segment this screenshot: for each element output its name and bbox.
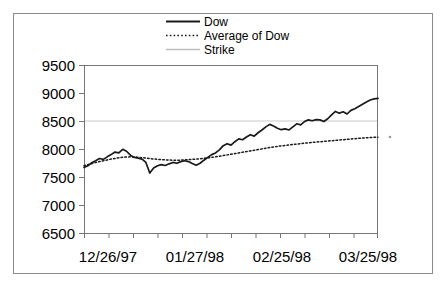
chart-figure: 9500 9000 8500 8000 7500 7000 6500 12/26…: [0, 0, 446, 294]
y-tick-label: 8500: [42, 113, 75, 130]
legend-label-strike: Strike: [204, 43, 235, 57]
y-tick-label: 9500: [42, 57, 75, 74]
legend-label-average: Average of Dow: [204, 29, 289, 43]
series-line-dow: [84, 98, 378, 173]
y-tick-label: 7500: [42, 169, 75, 186]
chart-legend: Dow Average of Dow Strike: [166, 15, 289, 57]
y-axis-labels: 9500 9000 8500 8000 7500 7000 6500: [42, 57, 75, 242]
x-tick-label: 02/25/98: [253, 248, 311, 265]
series-line-average-of-dow: [84, 137, 378, 166]
y-tick-label: 6500: [42, 225, 75, 242]
line-chart: 9500 9000 8500 8000 7500 7000 6500 12/26…: [0, 0, 446, 294]
x-tick-label: 01/27/98: [166, 248, 224, 265]
y-tick-label: 9000: [42, 85, 75, 102]
legend-label-dow: Dow: [204, 15, 228, 29]
x-tick-label: 12/26/97: [79, 248, 137, 265]
y-tick-marks: [79, 66, 84, 234]
x-tick-label: 03/25/98: [339, 248, 397, 265]
y-tick-label: 7000: [42, 197, 75, 214]
x-axis-labels: 12/26/97 01/27/98 02/25/98 03/25/98: [79, 248, 397, 265]
y-tick-label: 8000: [42, 141, 75, 158]
scan-artifact-speck: [389, 136, 392, 139]
